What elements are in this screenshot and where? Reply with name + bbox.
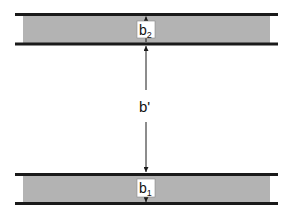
bottom-layer-label-sub: 1 xyxy=(147,188,152,198)
top-layer-label-sub: 2 xyxy=(147,30,152,40)
gap-dimension: b' xyxy=(139,46,150,172)
bottom-layer-label-base: b xyxy=(139,180,147,196)
layer-diagram: b2 b' b1 xyxy=(0,0,292,215)
top-layer: b2 xyxy=(15,15,278,45)
top-layer-label-base: b xyxy=(139,22,147,38)
gap-label: b' xyxy=(139,98,150,115)
bottom-layer: b1 xyxy=(15,175,278,204)
